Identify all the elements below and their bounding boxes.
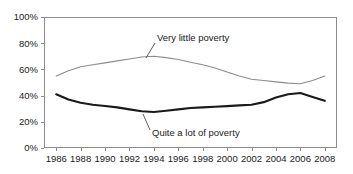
chart-canvas: 0%20%40%60%80%100% 198619881990199219941… xyxy=(0,0,353,174)
x-tick-label: 2000 xyxy=(217,153,238,164)
x-tick-label: 2002 xyxy=(241,153,262,164)
x-tick-label: 1986 xyxy=(46,153,67,164)
y-tick-label: 0% xyxy=(24,142,38,153)
x-tick-label: 1992 xyxy=(119,153,140,164)
y-tick-label: 80% xyxy=(19,38,39,49)
annotation-label-quite-a-lot-of-poverty: Quite a lot of poverty xyxy=(152,127,240,138)
x-tick-label: 2008 xyxy=(314,153,335,164)
y-tick-label: 60% xyxy=(19,64,39,75)
line-chart-poverty-perception: 0%20%40%60%80%100% 198619881990199219941… xyxy=(0,0,353,174)
x-tick-label: 2004 xyxy=(265,153,286,164)
x-tick-label: 1996 xyxy=(168,153,189,164)
y-tick-label: 20% xyxy=(19,116,39,127)
x-tick-label: 2006 xyxy=(290,153,311,164)
y-tick-label: 40% xyxy=(19,90,39,101)
annotation-label-very-little-poverty: Very little poverty xyxy=(157,32,230,43)
x-tick-label: 1994 xyxy=(143,153,164,164)
x-tick-label: 1988 xyxy=(70,153,91,164)
y-tick-label: 100% xyxy=(14,11,39,22)
x-tick-label: 1998 xyxy=(192,153,213,164)
x-tick-label: 1990 xyxy=(94,153,115,164)
